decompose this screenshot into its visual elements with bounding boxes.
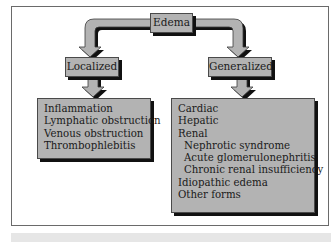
list-item: Thrombophlebitis: [44, 140, 144, 152]
list-item: Inflammation: [44, 103, 144, 115]
list-item-sub: Nephrotic syndrome: [178, 140, 308, 152]
generalized-causes-list: Cardiac Hepatic Renal Nephrotic syndrome…: [171, 98, 315, 213]
list-item-sub: Chronic renal insufficiency: [178, 164, 308, 176]
list-item: Lymphatic obstruction: [44, 115, 144, 127]
list-item: Other forms: [178, 189, 308, 201]
arrow-edema-to-generalized: [191, 19, 249, 57]
edema-node: Edema: [150, 13, 193, 33]
generalized-node: Generalized: [208, 57, 272, 77]
localized-causes-list: Inflammation Lymphatic obstruction Venou…: [37, 98, 151, 159]
caption-bar: [11, 233, 331, 242]
list-item: Hepatic: [178, 115, 308, 127]
edema-label: Edema: [153, 16, 190, 28]
arrow-edema-to-localized: [79, 19, 151, 57]
localized-label: Localized: [67, 60, 118, 72]
list-item: Idiopathic edema: [178, 177, 308, 189]
list-item: Cardiac: [178, 103, 308, 115]
localized-node: Localized: [65, 57, 119, 77]
list-item: Venous obstruction: [44, 128, 144, 140]
list-item: Renal: [178, 128, 308, 140]
generalized-label: Generalized: [209, 60, 273, 72]
list-item-sub: Acute glomerulonephritis: [178, 152, 308, 164]
